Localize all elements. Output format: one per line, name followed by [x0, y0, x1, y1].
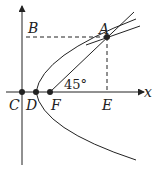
label-A: A — [97, 21, 109, 37]
point-D — [33, 89, 39, 95]
label-E: E — [101, 97, 112, 113]
label-F: F — [50, 97, 62, 113]
label-D: D — [25, 97, 37, 113]
line-FA — [50, 12, 134, 92]
label-angle: 45° — [64, 77, 87, 92]
label-B: B — [27, 20, 38, 36]
parabola-diagram: B A C D F E x 45° — [0, 0, 155, 171]
label-x-axis: x — [144, 84, 152, 100]
point-F — [47, 89, 53, 95]
diagram: B A C D F E x 45° — [0, 0, 155, 171]
point-C — [19, 89, 25, 95]
label-C: C — [9, 97, 20, 113]
